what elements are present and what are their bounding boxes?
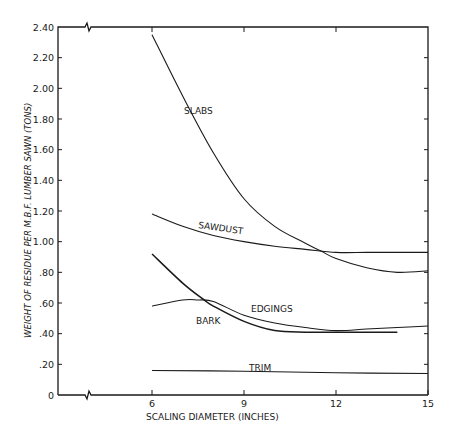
top-and-side-axes: [58, 23, 428, 395]
y-tick-label: 2.00: [33, 83, 54, 94]
label-bark: BARK: [196, 316, 222, 326]
y-tick-label: .60: [39, 298, 54, 309]
y-tick-label: .40: [39, 328, 54, 339]
label-sawdust: SAWDUST: [198, 220, 245, 236]
y-tick-label: 1.20: [33, 206, 54, 217]
plot-frame: [58, 23, 428, 399]
x-tick-label: 15: [422, 398, 434, 409]
curve-trim: [152, 370, 428, 373]
label-trim: TRIM: [248, 363, 271, 373]
curve-slabs: [152, 35, 428, 273]
label-edgings: EDGINGS: [251, 304, 293, 314]
y-tick-label: .80: [39, 267, 54, 278]
y-tick-label: 2.20: [33, 52, 54, 63]
y-tick-label: 2.40: [33, 22, 54, 33]
chart-canvas: 0.20.40.60.801.001.201.401.601.802.002.2…: [0, 0, 451, 431]
residue-weight-chart: 0.20.40.60.801.001.201.401.601.802.002.2…: [0, 0, 451, 431]
y-tick-label: 1.60: [33, 144, 54, 155]
x-axis-ticks: 691215: [149, 27, 434, 409]
y-tick-label: 0: [48, 390, 54, 401]
x-tick-label: 9: [241, 398, 247, 409]
curve-bark: [152, 254, 397, 332]
y-tick-label: 1.40: [33, 175, 54, 186]
y-axis-title: WEIGHT OF RESIDUE PER M.B.F. LUMBER SAWN…: [23, 103, 33, 338]
data-curves: [152, 35, 428, 374]
curve-sawdust: [152, 214, 428, 253]
x-axis-title: SCALING DIAMETER (INCHES): [146, 412, 279, 422]
y-tick-label: 1.00: [33, 236, 54, 247]
x-tick-label: 6: [149, 398, 155, 409]
y-tick-label: 1.80: [33, 114, 54, 125]
curve-labels: SLABS SAWDUST EDGINGS BARK TRIM: [184, 106, 293, 373]
label-slabs: SLABS: [184, 106, 213, 116]
x-tick-label: 12: [330, 398, 342, 409]
y-tick-label: .20: [39, 359, 54, 370]
y-axis-ticks: 0.20.40.60.801.001.201.401.601.802.002.2…: [33, 22, 428, 401]
